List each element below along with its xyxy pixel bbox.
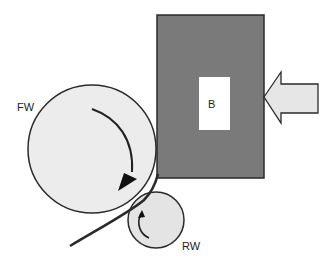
label-front-wheel: FW (17, 101, 34, 113)
diagram-canvas: FW B RW (0, 0, 334, 262)
label-rear-wheel: RW (182, 240, 200, 252)
push-arrow-icon (264, 72, 318, 123)
rear-wheel (128, 192, 184, 248)
diagram-svg (0, 0, 334, 262)
front-wheel (28, 85, 156, 213)
label-block: B (208, 98, 215, 110)
